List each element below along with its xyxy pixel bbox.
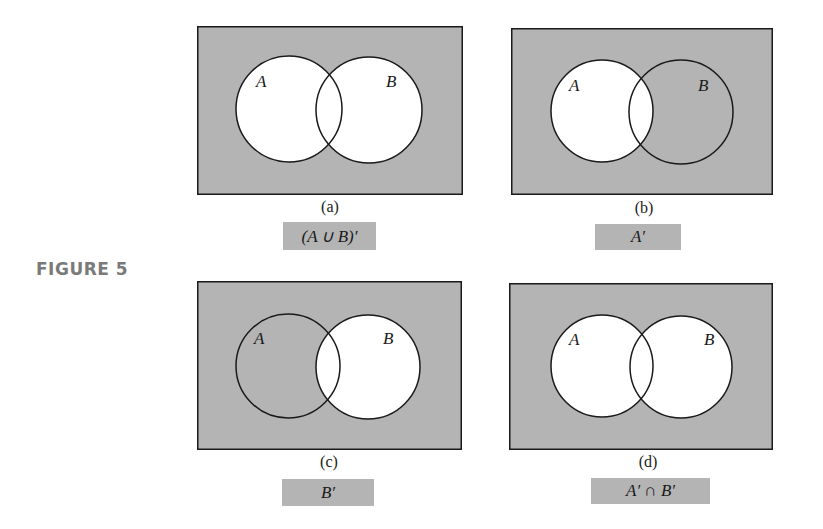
venn-panel-a: A B bbox=[197, 26, 463, 195]
panel-b-sublabel: (b) bbox=[614, 199, 674, 217]
set-b-label: B bbox=[383, 329, 394, 348]
set-b-label: B bbox=[386, 72, 397, 91]
venn-panel-b: A B bbox=[511, 28, 773, 195]
panel-d-caption: A′ ∩ B′ bbox=[591, 478, 710, 504]
panel-b-caption: A′ bbox=[595, 224, 681, 250]
set-a-label: A bbox=[568, 330, 580, 349]
venn-diagram-d: A B bbox=[509, 283, 773, 450]
set-a-label: A bbox=[253, 329, 265, 348]
panel-d-sublabel: (d) bbox=[618, 453, 678, 471]
set-b-label: B bbox=[704, 330, 715, 349]
venn-panel-c: A B bbox=[197, 281, 462, 450]
panel-a-caption: (A ∪ B)′ bbox=[283, 222, 376, 250]
set-a-label: A bbox=[255, 72, 267, 91]
set-b-label: B bbox=[698, 76, 709, 95]
venn-diagram-a: A B bbox=[197, 26, 463, 195]
venn-diagram-b: A B bbox=[511, 28, 773, 195]
venn-diagram-c: A B bbox=[197, 281, 462, 450]
panel-a-sublabel: (a) bbox=[300, 198, 360, 216]
venn-panel-d: A B bbox=[509, 283, 773, 450]
figure-label: FIGURE 5 bbox=[36, 259, 128, 279]
panel-c-caption: B′ bbox=[282, 479, 374, 506]
set-a-label: A bbox=[568, 76, 580, 95]
panel-c-sublabel: (c) bbox=[299, 453, 359, 471]
